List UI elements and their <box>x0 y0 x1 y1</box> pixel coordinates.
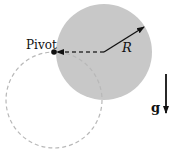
gravity-label: g <box>151 100 160 115</box>
diagram-canvas <box>0 0 171 153</box>
radius-label: R <box>122 40 132 55</box>
pivot-disk-diagram: Pivot R g <box>0 0 171 153</box>
pivot-label: Pivot <box>26 38 57 52</box>
